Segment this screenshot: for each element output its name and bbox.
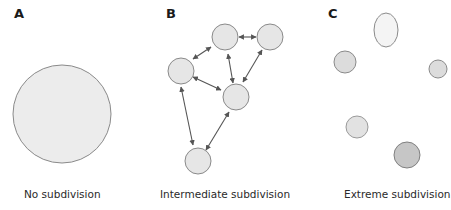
patch-ellipse (374, 13, 398, 47)
patch-lower-right (394, 142, 420, 168)
dispersal-arrows (181, 37, 262, 150)
intermediate-patches (168, 24, 283, 174)
patch-left (334, 51, 356, 73)
patch-right (429, 60, 447, 78)
patch-lower-left (346, 116, 368, 138)
single-large-patch (13, 65, 111, 163)
caption-a: No subdivision (24, 188, 101, 200)
caption-c: Extreme subdivision (344, 188, 451, 200)
caption-b: Intermediate subdivision (160, 188, 290, 200)
